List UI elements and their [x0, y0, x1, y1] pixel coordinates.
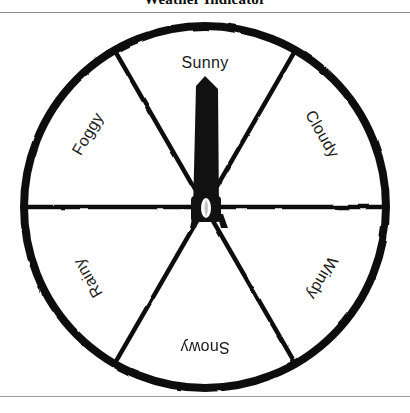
needle-hub: [201, 198, 211, 218]
page-canvas: Weather Indicator: [0, 0, 410, 413]
divider-bottom: [0, 396, 410, 397]
sector-label-sunny[interactable]: Sunny: [145, 52, 265, 74]
weather-indicator-dial[interactable]: Sunny Cloudy Windy Snowy Rainy Foggy: [0, 0, 410, 413]
sector-label-snowy[interactable]: Snowy: [145, 336, 265, 358]
